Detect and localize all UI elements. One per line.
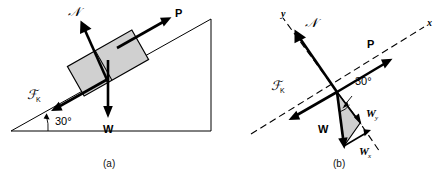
svg-text:𝒩: 𝒩 — [305, 15, 322, 30]
svg-text:x: x — [367, 152, 372, 160]
panel-b-weight-x-label: W x — [359, 145, 372, 160]
panel-b: x y 𝒩 P — [251, 8, 432, 169]
svg-text:y: y — [374, 114, 379, 122]
panel-b-y-axis-label: y — [280, 8, 286, 19]
panel-a-weight-force-label: W — [103, 123, 114, 135]
panel-b-weight-y-label: W y — [366, 107, 379, 122]
panel-a-applied-force-label: P — [175, 7, 182, 19]
svg-text:K: K — [280, 87, 285, 94]
panel-b-normal-force-label: 𝒩 — [305, 15, 322, 30]
physics-figure: 30° 𝒩 P — [0, 0, 440, 178]
panel-a-angle-label: 30° — [55, 115, 72, 127]
figure-container: 30° 𝒩 P — [0, 0, 440, 178]
incline-angle-arc — [44, 113, 50, 131]
panel-b-weight-force-label: W — [318, 123, 329, 135]
svg-text:𝒩: 𝒩 — [68, 4, 85, 19]
panel-a-caption: (a) — [103, 158, 115, 169]
panel-b-normal-force-vector — [295, 30, 338, 93]
panel-b-x-axis-label: x — [426, 17, 432, 28]
panel-b-caption: (b) — [333, 158, 345, 169]
panel-a-applied-force-vector — [117, 17, 172, 48]
panel-a-normal-force-label: 𝒩 — [68, 4, 85, 19]
svg-text:K: K — [36, 96, 41, 103]
panel-b-friction-force-label: ℱ K — [271, 78, 285, 94]
panel-a: 30° 𝒩 P — [11, 4, 211, 169]
panel-b-applied-force-label: P — [367, 38, 374, 50]
panel-a-friction-force-label: ℱ K — [27, 87, 41, 103]
panel-b-angle-label: 30° — [355, 75, 372, 87]
